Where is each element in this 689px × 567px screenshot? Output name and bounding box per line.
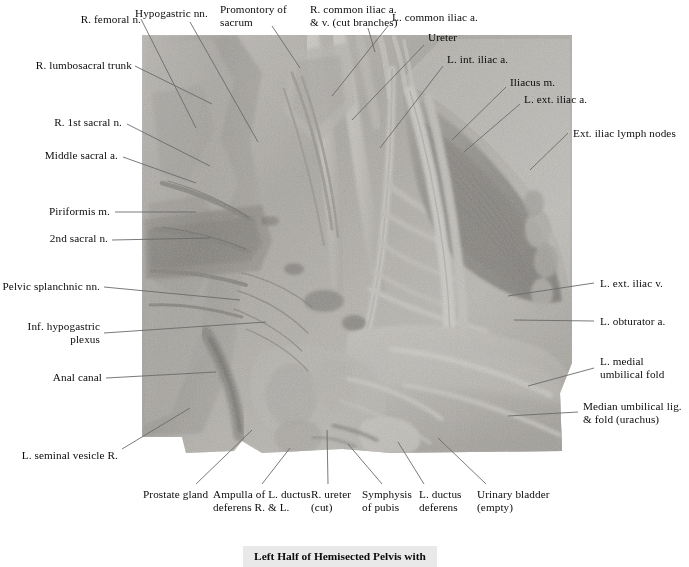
label-l-int-iliac-a: L. int. iliac a. xyxy=(447,53,547,66)
label-r-femoral-n: R. femoral n. xyxy=(20,13,141,26)
specimen-photograph xyxy=(142,33,572,455)
label-l-obturator-a: L. obturator a. xyxy=(600,315,689,328)
label-ext-iliac-lymph: Ext. iliac lymph nodes xyxy=(573,127,689,140)
label-middle-sacral-a: Middle sacral a. xyxy=(14,149,118,162)
label-promontory-sacrum: Promontory of sacrum xyxy=(220,3,310,28)
label-l-seminal-vesicle: L. seminal vesicle R. xyxy=(0,449,118,462)
figure-caption-text: Left Half of Hemisected Pelvis with xyxy=(243,550,437,562)
label-iliacus-m: Iliacus m. xyxy=(510,76,600,89)
label-anal-canal: Anal canal xyxy=(24,371,102,384)
label-ureter: Ureter xyxy=(428,31,498,44)
label-l-ext-iliac-a: L. ext. iliac a. xyxy=(524,93,634,106)
label-r-1st-sacral-n: R. 1st sacral n. xyxy=(16,116,122,129)
label-l-ext-iliac-v: L. ext. iliac v. xyxy=(600,277,689,290)
label-l-common-iliac-a: L. common iliac a. xyxy=(392,11,512,24)
label-r-lumbosacral-trunk: R. lumbosacral trunk xyxy=(6,59,132,72)
specimen-image xyxy=(142,33,572,455)
label-pelvic-splanchnic: Pelvic splanchnic nn. xyxy=(0,280,100,293)
label-inf-hypogastric: Inf. hypogastric plexus xyxy=(14,320,100,345)
anatomical-plate: R. femoral n. Hypogastric nn. Promontory… xyxy=(0,0,689,567)
label-2nd-sacral-n: 2nd sacral n. xyxy=(24,232,108,245)
label-ampulla-ductus: Ampulla of L. ductus deferens R. & L. xyxy=(213,488,325,513)
label-l-ductus-deferens: L. ductus deferens xyxy=(419,488,485,513)
label-piriformis-m: Piriformis m. xyxy=(22,205,110,218)
label-median-umb-lig: Median umbilical lig. & fold (urachus) xyxy=(583,400,689,425)
label-l-medial-umb-fold: L. medial umbilical fold xyxy=(600,355,688,380)
figure-caption-band: Left Half of Hemisected Pelvis with xyxy=(243,546,437,567)
label-urinary-bladder: Urinary bladder (empty) xyxy=(477,488,573,513)
